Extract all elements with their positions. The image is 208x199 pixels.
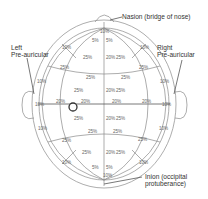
pct-label: 25% xyxy=(74,116,83,121)
inion-label: Inion (occipital protuberance) xyxy=(145,173,187,188)
pct-label: 10% xyxy=(139,160,148,165)
pct-label: 20% xyxy=(106,55,115,60)
pct-label: 25% xyxy=(86,75,95,80)
pct-label: 25% xyxy=(121,75,130,80)
inion-line1: Inion (occipital xyxy=(145,173,187,180)
pct-label: 25% xyxy=(113,129,122,134)
pct-label: 25% xyxy=(83,55,92,60)
inion-line2: protuberance) xyxy=(145,180,187,187)
pct-label: 20% xyxy=(106,88,115,93)
pct-label: 20% xyxy=(106,116,115,121)
head-diagram: 10% 5% 5% 10% 10% 25% 20% 25% 25% 25% 25… xyxy=(0,0,208,199)
pct-label: 10% xyxy=(103,173,112,178)
pct-label: 5% xyxy=(106,165,113,170)
pct-label: 25% xyxy=(116,116,125,121)
left-preauricular-callout-line xyxy=(27,58,34,94)
pct-label: 10% xyxy=(100,29,109,34)
pct-label: 20% xyxy=(106,150,115,155)
nose-outline xyxy=(95,15,114,22)
right-preauricular-line2: Pre-auricular xyxy=(157,51,195,58)
pct-label: 25% xyxy=(88,129,97,134)
pct-label: 25% xyxy=(116,150,125,155)
pct-label: 25% xyxy=(74,88,83,93)
pct-label: 25% xyxy=(139,65,148,70)
left-preauricular-label: Left Pre-auricular xyxy=(11,44,49,59)
pct-label: 25% xyxy=(116,88,125,93)
pct-label: 10% xyxy=(160,79,169,84)
right-preauricular-callout-line xyxy=(174,60,182,94)
pct-label: 25% xyxy=(82,150,91,155)
right-preauricular-label: Right Pre-auricular xyxy=(157,44,195,59)
pct-label: 5% xyxy=(92,165,99,170)
pct-label: 20% xyxy=(56,99,65,104)
nasion-label: Nasion (bridge of nose) xyxy=(122,13,191,20)
pct-label: 10% xyxy=(38,126,47,131)
left-preauricular-line1: Left xyxy=(11,44,49,51)
pct-label: 25% xyxy=(138,137,147,142)
pct-label: 10% xyxy=(159,126,168,131)
pct-label: 20% xyxy=(81,99,90,104)
right-ear-outline xyxy=(175,91,187,119)
right-preauricular-line1: Right xyxy=(157,44,195,51)
pct-label: 10% xyxy=(35,102,44,107)
pct-label: 20% xyxy=(142,99,151,104)
pct-label: 25% xyxy=(60,65,69,70)
pct-label: 5% xyxy=(92,38,99,43)
pct-label: 10% xyxy=(37,79,46,84)
nasion-callout-line xyxy=(110,17,122,20)
electrode-marker[interactable] xyxy=(69,103,77,111)
pct-label: 10% xyxy=(62,160,71,165)
pct-label: 25% xyxy=(62,138,71,143)
pct-label: 10% xyxy=(62,45,71,50)
left-preauricular-line2: Pre-auricular xyxy=(11,51,49,58)
pct-label: 25% xyxy=(116,55,125,60)
pct-label: 10% xyxy=(140,45,149,50)
pct-label: 10% xyxy=(162,102,171,107)
pct-label: 20% xyxy=(112,99,121,104)
pct-label: 5% xyxy=(106,38,113,43)
